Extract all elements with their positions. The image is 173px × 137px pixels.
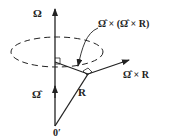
centripetal-line: [55, 62, 88, 74]
R-label: R: [78, 86, 87, 98]
omega-hat-cross-R-label: Ω̂ × R: [123, 69, 150, 80]
omega-label: Ω: [33, 7, 42, 19]
origin-label: 0′: [53, 127, 61, 137]
rotation-vector-diagram: Ω Ω̂ R 0′ Ω̂ × R Ω̂ × (Ω̂ × R): [0, 0, 173, 137]
double-cross-label: Ω̂ × (Ω̂ × R): [98, 18, 149, 30]
R-vector: [55, 74, 88, 126]
omega-hat-label: Ω̂: [32, 88, 43, 100]
